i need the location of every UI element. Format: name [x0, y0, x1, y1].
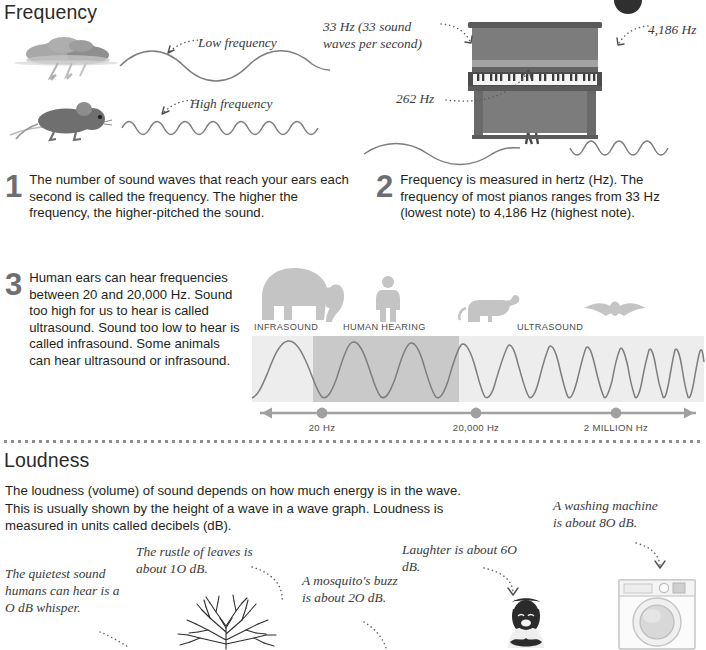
section-divider: [4, 440, 704, 443]
low-frequency-pointer-icon: [152, 36, 204, 62]
frequency-point-2-number: 2: [376, 172, 393, 201]
spectrum-axis: [252, 402, 704, 424]
piano-callout-lowest: 33 Hz (33 sound waves per second): [323, 18, 448, 52]
loudness-callout-mosquito-pointer-icon: [362, 620, 406, 650]
axis-tick-20hz: [317, 408, 328, 419]
loudness-heading: Loudness: [4, 449, 89, 472]
human-icon: [376, 276, 400, 322]
axis-tick-label-20000hz: 20,000 Hz: [436, 422, 516, 433]
piano-low-wave-decoration: [362, 142, 522, 168]
rustling-leaves-illustration: [166, 592, 286, 649]
spectrum-band-label-human-hearing: HUMAN HEARING: [343, 322, 426, 332]
loudness-callout-whisper: The quietest sound humans can hear is a …: [5, 565, 123, 616]
frequency-point-3-text: Human ears can hear frequencies between …: [29, 270, 241, 370]
dog-icon: [459, 295, 519, 322]
loudness-callout-laughter-pointer-icon: [482, 566, 530, 602]
low-frequency-label: Low frequency: [198, 34, 277, 51]
loudness-body-text: The loudness (volume) of sound depends o…: [5, 482, 475, 535]
frequency-point-3-number: 3: [5, 270, 22, 299]
piano-callout-middle: 262 Hz: [396, 90, 434, 107]
bat-icon: [584, 302, 646, 317]
piano-callout-lowest-pointer-icon: [440, 22, 480, 52]
high-frequency-label: High frequency: [190, 95, 272, 112]
storm-cloud-illustration: [6, 32, 126, 80]
laughing-person-illustration: [486, 598, 566, 649]
band-human-hearing: [313, 336, 459, 402]
elephant-icon: [262, 268, 344, 322]
spectrum-band-label-ultrasound: ULTRASOUND: [517, 322, 583, 332]
frequency-point-1-number: 1: [5, 172, 22, 201]
frequency-point-2: 2 Frequency is measured in hertz (Hz). T…: [376, 172, 702, 222]
loudness-callout-mosquito: A mosquito's buzz is about 2O dB.: [302, 572, 406, 606]
piano-callout-lowest-line1: 33 Hz (33 sound: [323, 18, 448, 35]
spectrum-wave-plot: [252, 336, 704, 402]
frequency-heading: Frequency: [4, 1, 97, 24]
spectrum-band-label-infrasound: INFRASOUND: [254, 322, 318, 332]
axis-tick-label-20hz: 20 Hz: [282, 422, 362, 433]
axis-tick-20000hz: [471, 408, 482, 419]
frequency-point-1-text: The number of sound waves that reach you…: [29, 172, 353, 222]
frequency-point-3: 3 Human ears can hear frequencies betwee…: [5, 270, 241, 370]
axis-tick-2million-hz: [611, 408, 622, 419]
washing-machine-illustration: [615, 576, 703, 649]
spectrum-animal-silhouettes: [252, 258, 704, 328]
decorative-dot: [614, 0, 642, 14]
loudness-callout-washing-machine: A washing machine is about 8O dB.: [553, 497, 667, 531]
band-infrasound: [252, 336, 313, 402]
loudness-callout-whisper-pointer-icon: [98, 630, 142, 650]
piano-callout-highest-pointer-icon: [608, 24, 650, 54]
frequency-point-2-text: Frequency is measured in hertz (Hz). The…: [400, 172, 702, 222]
frequency-spectrum-chart: INFRASOUND HUMAN HEARING ULTRASOUND 20 H…: [252, 258, 704, 434]
frequency-point-1: 1 The number of sound waves that reach y…: [5, 172, 353, 222]
axis-tick-label-2million-hz: 2 MILLION Hz: [566, 422, 666, 433]
mouse-illustration: [8, 100, 118, 144]
piano-high-wave-decoration: [568, 142, 664, 166]
piano-callout-middle-pointer-icon: [444, 66, 554, 108]
axis-arrow-right-icon: [684, 408, 694, 419]
piano-callout-highest: 4,186 Hz: [648, 21, 696, 38]
loudness-callout-washing-pointer-icon: [634, 541, 676, 575]
axis-arrow-left-icon: [262, 408, 272, 419]
piano-callout-lowest-line2: waves per second): [323, 35, 448, 52]
